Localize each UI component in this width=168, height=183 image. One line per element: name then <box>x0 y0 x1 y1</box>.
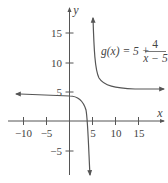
x-tick-label: 5 <box>90 127 96 139</box>
x-axis-label: x <box>156 106 163 120</box>
formula-denominator: x − 5 <box>142 52 168 64</box>
function-formula: g(x) = 5 + 4 x − 5 <box>101 38 168 64</box>
y-tick-label: 10 <box>51 57 63 69</box>
y-tick-label: −5 <box>50 145 62 157</box>
graph-canvas: −10 −5 5 10 15 15 10 5 −5 x y g(x) = 5 +… <box>0 0 168 183</box>
y-axis-label: y <box>72 3 79 17</box>
x-tick-label: −5 <box>41 127 53 139</box>
formula-lhs: g(x) = 5 + <box>101 45 149 58</box>
x-tick-label: 15 <box>134 127 146 139</box>
y-tick-label: 15 <box>51 27 63 39</box>
x-tick-label: 10 <box>111 127 123 139</box>
formula-numerator: 4 <box>152 38 158 50</box>
x-tick-label: −10 <box>15 127 33 139</box>
